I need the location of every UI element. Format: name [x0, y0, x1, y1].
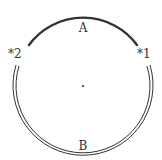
center-dot	[82, 85, 84, 87]
label-point-2: *2	[8, 47, 22, 61]
label-arc-b: B	[79, 139, 88, 153]
label-point-1: *1	[137, 47, 151, 61]
label-arc-a: A	[78, 21, 88, 35]
circle-diagram: A B *2 *1	[0, 0, 162, 160]
